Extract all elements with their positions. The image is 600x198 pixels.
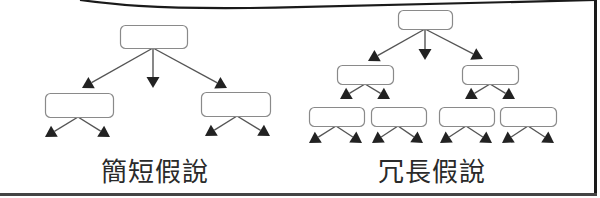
hypothesis-node-box xyxy=(372,108,427,127)
edge-line xyxy=(466,126,483,137)
edge-line xyxy=(378,29,425,56)
hypothesis-node-box xyxy=(121,26,188,49)
edge-line xyxy=(490,84,506,93)
edge-line xyxy=(365,84,381,93)
edge-line xyxy=(54,117,78,131)
short-hypothesis-tree xyxy=(45,26,271,138)
panel-frame xyxy=(0,0,600,198)
edge-line xyxy=(425,29,473,54)
edge-line xyxy=(528,126,545,137)
edge-line xyxy=(449,126,466,137)
arrowhead-icon xyxy=(340,88,353,99)
hypothesis-node-box xyxy=(501,108,557,127)
edge-line xyxy=(237,116,261,130)
edge-line xyxy=(318,126,336,137)
arrowhead-icon xyxy=(502,88,515,99)
hypothesis-node-box xyxy=(399,11,453,30)
short-hypothesis-label: 簡短假說 xyxy=(101,157,209,187)
edge-line xyxy=(153,48,217,83)
arrowhead-icon xyxy=(372,132,385,143)
arrowhead-icon xyxy=(205,125,218,136)
speech-bubble-edge xyxy=(80,0,596,8)
long-hypothesis-label: 冗長假說 xyxy=(378,157,486,187)
edge-line xyxy=(474,84,490,93)
edge-line xyxy=(78,117,101,131)
edge-line xyxy=(336,126,353,137)
arrowhead-icon xyxy=(349,132,362,143)
arrowhead-icon xyxy=(479,132,492,143)
hypothesis-node-box xyxy=(310,108,365,127)
edge-line xyxy=(511,126,528,137)
hypothesis-node-box xyxy=(202,93,271,117)
arrowhead-icon xyxy=(309,132,322,143)
arrowhead-icon xyxy=(97,126,110,137)
edge-line xyxy=(214,116,237,130)
comic-panel: 簡短假說 冗長假說 xyxy=(0,0,600,198)
arrowhead-icon xyxy=(410,131,423,143)
arrowhead-icon xyxy=(541,132,554,143)
edge-line xyxy=(349,84,365,93)
arrowhead-icon xyxy=(147,77,160,88)
hypothesis-node-box xyxy=(46,94,114,118)
edge-line xyxy=(398,126,414,137)
long-hypothesis-tree xyxy=(309,11,557,144)
arrowhead-icon xyxy=(45,126,58,137)
arrowhead-icon xyxy=(419,49,432,60)
arrowhead-icon xyxy=(465,88,478,99)
hypothesis-node-box xyxy=(463,66,519,85)
arrowhead-icon xyxy=(257,125,270,136)
arrowhead-icon xyxy=(440,132,453,143)
edge-line xyxy=(381,126,398,137)
arrowhead-icon xyxy=(502,132,515,143)
hypothesis-node-box xyxy=(338,66,394,85)
hypothesis-node-box xyxy=(440,108,495,127)
arrowhead-icon xyxy=(377,88,390,99)
edge-line xyxy=(92,48,153,83)
